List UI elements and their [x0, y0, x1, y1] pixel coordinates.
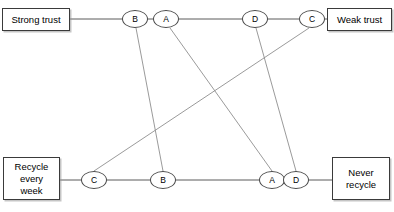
diagram-canvas: Strong trust Weak trust Recycle every we…: [0, 0, 394, 212]
node-label-bottom-b: B: [160, 175, 166, 185]
node-label-top-d: D: [252, 14, 258, 24]
node-label-top-c: C: [309, 14, 315, 24]
node-bottom-c[interactable]: C: [81, 171, 107, 189]
label-text-strong-trust: Strong trust: [11, 14, 60, 26]
node-top-c[interactable]: C: [299, 10, 325, 28]
node-label-bottom-d: D: [293, 175, 299, 185]
label-text-weak-trust: Weak trust: [337, 14, 382, 26]
node-top-d[interactable]: D: [242, 10, 268, 28]
node-label-top-b: B: [132, 14, 138, 24]
node-bottom-a[interactable]: A: [259, 171, 285, 189]
label-text-recycle-every-week: Recycle every week: [15, 161, 49, 197]
node-bottom-b[interactable]: B: [150, 171, 176, 189]
label-box-recycle-every-week: Recycle every week: [3, 157, 60, 200]
label-text-never-recycle: Never recycle: [346, 167, 376, 191]
node-top-b[interactable]: B: [122, 10, 148, 28]
connector-B: [136, 28, 163, 171]
node-bottom-d[interactable]: D: [283, 171, 309, 189]
label-box-never-recycle: Never recycle: [332, 157, 390, 200]
connector-A: [170, 28, 272, 171]
node-label-top-a: A: [163, 14, 169, 24]
node-label-bottom-c: C: [91, 175, 97, 185]
label-box-strong-trust: Strong trust: [2, 8, 70, 31]
connector-C: [94, 28, 309, 171]
node-top-a[interactable]: A: [153, 10, 179, 28]
label-box-weak-trust: Weak trust: [327, 8, 392, 31]
node-label-bottom-a: A: [269, 175, 275, 185]
